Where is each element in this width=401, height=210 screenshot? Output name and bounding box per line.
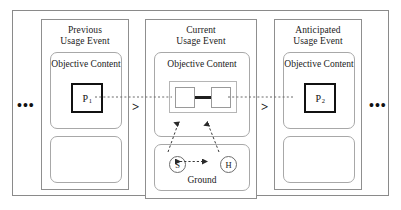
proposition-p1-subscript: 1 [89, 97, 92, 104]
panel-anticipated-title-line1: Anticipated [295, 25, 340, 35]
panel-previous-title-line2: Usage Event [42, 36, 128, 47]
empty-region-anticipated [283, 136, 355, 183]
panel-anticipated-title: Anticipated Usage Event [275, 25, 361, 47]
objective-content-previous-line1: Objective [51, 59, 88, 69]
empty-region-previous [50, 136, 122, 183]
separator-previous-current: > [132, 100, 139, 113]
separator-current-anticipated: > [261, 100, 268, 113]
objective-content-anticipated-title: Objective Content [284, 59, 354, 70]
speaker-circle: S [169, 156, 186, 173]
hearer-circle: H [220, 156, 237, 173]
linked-node-right [211, 87, 231, 108]
proposition-box-p1: P1 [71, 83, 103, 113]
objective-content-current: Objective Content [154, 52, 250, 137]
linked-node-connector [195, 96, 211, 99]
objective-content-previous-title: Objective Content [51, 59, 121, 70]
objective-content-current-title: Objective Content [155, 59, 249, 70]
objective-content-previous: Objective Content P1 [50, 52, 122, 129]
panel-previous-usage-event: Previous Usage Event Objective Content P… [41, 19, 129, 190]
objective-content-anticipated: Objective Content P2 [283, 52, 355, 129]
linked-node-left [175, 87, 195, 108]
proposition-p2-subscript: 2 [322, 97, 325, 104]
objective-content-anticipated-line1: Objective [284, 59, 321, 69]
panel-anticipated-title-line2: Usage Event [275, 36, 361, 47]
panel-current-title-line2: Usage Event [146, 36, 256, 47]
ellipsis-right: ••• [369, 99, 387, 113]
panel-current-title: Current Usage Event [146, 25, 256, 47]
objective-content-current-line2: Content [207, 59, 237, 69]
ground-label: Ground [155, 175, 249, 185]
proposition-box-p2: P2 [304, 83, 336, 113]
proposition-p2-label: P [316, 93, 322, 104]
panel-current-usage-event: Current Usage Event Objective Content S … [145, 19, 257, 199]
ellipsis-left: ••• [17, 99, 35, 113]
usage-event-diagram: ••• Previous Usage Event Objective Conte… [0, 0, 401, 210]
ground-box: S H Ground [154, 144, 250, 191]
objective-content-anticipated-line2: Content [324, 59, 354, 69]
proposition-p1-label: P [83, 93, 89, 104]
panel-previous-title-line1: Previous [68, 25, 102, 35]
objective-content-current-line1: Objective [167, 59, 204, 69]
objective-content-previous-line2: Content [91, 59, 121, 69]
panel-previous-title: Previous Usage Event [42, 25, 128, 47]
panel-current-title-line1: Current [186, 25, 216, 35]
linked-node-pair-group [169, 81, 237, 113]
panel-anticipated-usage-event: Anticipated Usage Event Objective Conten… [274, 19, 362, 190]
